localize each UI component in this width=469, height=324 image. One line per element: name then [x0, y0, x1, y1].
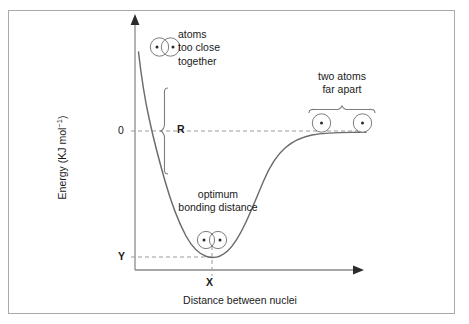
far-apart-brace	[309, 106, 375, 113]
annotation-optimum-bonding-line1: optimum	[156, 188, 280, 201]
atoms-bonded-icon	[197, 231, 226, 248]
x-axis-title: Distance between nuclei	[140, 294, 340, 307]
annotation-two-atoms-far-apart-line2: far apart	[303, 83, 381, 96]
bond-energy-brace-label: R	[177, 123, 185, 136]
y-axis-tick-minimum: Y	[118, 250, 125, 263]
y-axis-title-main: Energy (KJ mol	[56, 128, 68, 200]
annotation-atoms-too-close-line1: atoms	[178, 28, 220, 41]
atoms-overlapping-icon	[150, 38, 179, 56]
y-axis-title-superscript: −1	[55, 119, 64, 128]
x-axis-tick-equilibrium: X	[206, 276, 213, 289]
y-axis-title: Energy (KJ mol−1)	[55, 87, 70, 227]
x-axis-arrow-icon	[353, 266, 364, 275]
potential-energy-chart	[0, 0, 469, 324]
annotation-optimum-bonding-line2: bonding distance	[156, 201, 280, 214]
annotation-atoms-too-close-line2: too close	[178, 41, 220, 54]
figure-root: atoms too close together two atoms far a…	[0, 0, 469, 324]
annotation-optimum-bonding-distance: optimum bonding distance	[156, 188, 280, 215]
y-axis-tick-zero: 0	[118, 124, 124, 137]
annotation-atoms-too-close: atoms too close together	[178, 28, 220, 68]
annotation-two-atoms-far-apart-line1: two atoms	[303, 70, 381, 83]
annotation-atoms-too-close-line3: together	[178, 55, 220, 68]
annotation-two-atoms-far-apart: two atoms far apart	[303, 70, 381, 97]
y-axis-title-close: )	[56, 116, 68, 120]
atoms-separated-icon	[312, 114, 371, 132]
y-axis-arrow-icon	[131, 14, 140, 25]
